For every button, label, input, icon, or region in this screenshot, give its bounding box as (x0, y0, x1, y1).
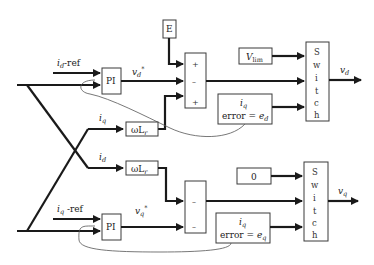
bottom-branch: iq -ref PI vq* – – 0 iq error = eq (53, 162, 358, 252)
sum-sign-minus: – (192, 77, 196, 86)
switch-letter: w (313, 60, 321, 70)
vd-output-label: vd (340, 65, 349, 77)
switch-letter: S (314, 47, 320, 57)
switch-letter: c (314, 98, 319, 108)
iq-cross-label: iq (99, 113, 106, 125)
vq-star-label: vq* (135, 204, 148, 218)
switch-letter: t (315, 86, 319, 96)
vd-star-label: vd* (132, 65, 145, 79)
sum-sign-plus-2: + (192, 98, 199, 107)
switch-letter: h (312, 230, 318, 240)
switch-letter: c (312, 218, 317, 228)
iq-ref-label: iq -ref (57, 204, 84, 216)
switch-letter: S (312, 167, 318, 177)
switch-letter: t (313, 206, 317, 216)
id-ref-label: id-ref (57, 58, 81, 70)
sum-sign-minus-1: – (192, 197, 196, 206)
sum-sign-minus-2: – (192, 222, 196, 231)
switch-letter: i (315, 73, 318, 83)
zero-label: 0 (251, 172, 257, 182)
switch-letter: h (314, 110, 320, 120)
switch-letter: i (313, 193, 316, 203)
control-diagram: id-ref PI vd* E + – + Vlim iq (0, 0, 374, 265)
sum-sign-plus-1: + (192, 60, 199, 69)
id-cross-label: id (99, 152, 106, 164)
e-label: E (166, 24, 173, 34)
cross-coupling: iq ωLr id ωLr (99, 113, 158, 176)
pi-label-d: PI (106, 76, 116, 86)
vq-output-label: vq (338, 186, 347, 198)
pi-label-q: PI (106, 222, 116, 232)
switch-letter: w (311, 180, 319, 190)
